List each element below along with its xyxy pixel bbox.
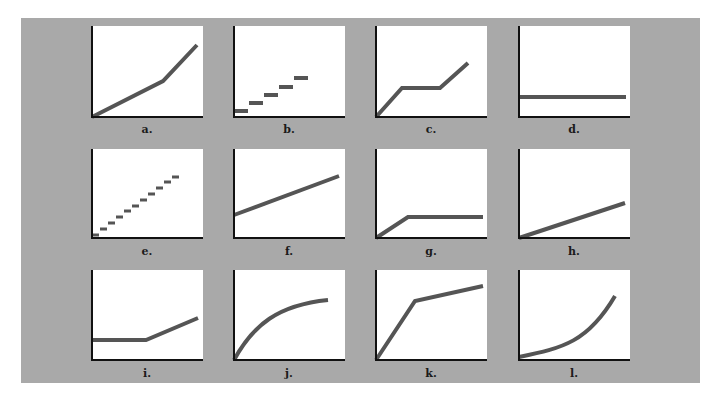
curve-chart [518, 270, 630, 361]
line-chart [91, 26, 203, 118]
chart-f: f. [233, 149, 345, 265]
chart-d: d. [518, 26, 630, 142]
chart-j: j. [233, 270, 345, 386]
plot-area [518, 270, 630, 361]
chart-b: b. [233, 26, 345, 142]
step-chart [233, 26, 345, 118]
chart-label: b. [233, 123, 345, 136]
chart-label: d. [518, 123, 630, 136]
chart-label: k. [375, 367, 487, 380]
chart-c: c. [375, 26, 487, 142]
step-chart [91, 149, 203, 239]
plot-area [233, 149, 345, 239]
line-chart [233, 149, 345, 239]
chart-label: h. [518, 245, 630, 258]
line-chart [375, 270, 487, 361]
chart-a: a. [91, 26, 203, 142]
curve-chart [233, 270, 345, 361]
plot-area [233, 26, 345, 118]
chart-h: h. [518, 149, 630, 265]
plot-area [375, 26, 487, 118]
plot-area [91, 26, 203, 118]
chart-e: e. [91, 149, 203, 265]
line-chart [518, 149, 630, 239]
chart-label: a. [91, 123, 203, 136]
chart-i: i. [91, 270, 203, 386]
chart-label: j. [233, 367, 345, 380]
plot-area [233, 270, 345, 361]
plot-area [91, 270, 203, 361]
plot-area [518, 26, 630, 118]
chart-label: i. [91, 367, 203, 380]
chart-g: g. [375, 149, 487, 265]
line-chart [91, 270, 203, 361]
chart-label: e. [91, 245, 203, 258]
line-chart [375, 26, 487, 118]
chart-l: l. [518, 270, 630, 386]
chart-k: k. [375, 270, 487, 386]
plot-area [91, 149, 203, 239]
plot-area [518, 149, 630, 239]
figure-panel: a. b. c. [21, 18, 700, 383]
line-chart [518, 26, 630, 118]
chart-label: f. [233, 245, 345, 258]
chart-label: c. [375, 123, 487, 136]
chart-label: l. [518, 367, 630, 380]
plot-area [375, 270, 487, 361]
chart-label: g. [375, 245, 487, 258]
line-chart [375, 149, 487, 239]
plot-area [375, 149, 487, 239]
